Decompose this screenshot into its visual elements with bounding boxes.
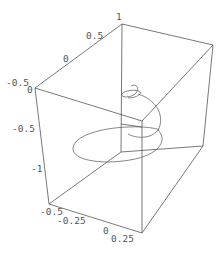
tick-label: -0.5 [6,77,29,88]
bounding-box [35,24,213,233]
box-edge [35,88,49,204]
tick-label: -0.25 [57,215,86,226]
tick-label: 0.5 [86,30,103,41]
box-edge [122,24,213,45]
tick-labels: -0.5 0 0.5 1 0 -0.5 -1 -0.5 -0.25 0 0.25 [6,11,134,244]
tick-label: 0 [63,53,69,64]
spiral-curve [73,85,162,162]
3d-plot: -0.5 0 0.5 1 0 -0.5 -1 -0.5 -0.25 0 0.25 [0,0,223,256]
box-edge [49,152,121,204]
tick-label: -0.5 [12,123,35,134]
box-edge [142,45,213,121]
box-edge [142,146,203,233]
box-edge [121,24,122,152]
box-edge [35,88,142,121]
tick-label: 1 [116,11,122,22]
box-edge [203,45,213,146]
tick-label: -1 [31,163,43,174]
tick-label: 0.25 [111,233,134,244]
box-edge [121,146,203,152]
box-edge [35,24,122,88]
tick-label: 0 [27,84,33,95]
tick-label: 0 [103,225,109,236]
